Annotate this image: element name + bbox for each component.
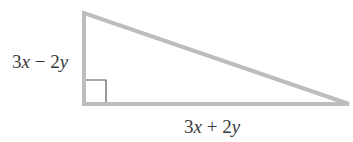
right-angle-marker	[86, 80, 106, 102]
triangle-shape	[84, 13, 349, 104]
vertical-leg-label: 3x − 2y	[12, 51, 69, 72]
right-triangle-diagram: 3x − 2y 3x + 2y	[0, 0, 353, 142]
horizontal-leg-label: 3x + 2y	[184, 116, 241, 137]
